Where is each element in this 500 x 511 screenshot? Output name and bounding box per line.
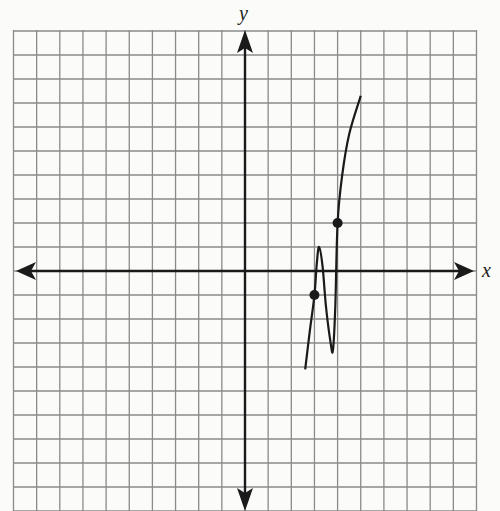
coordinate-plane: [0, 0, 500, 511]
marked-point: [333, 218, 343, 228]
y-axis-label: y: [239, 2, 248, 25]
x-axis-label: x: [482, 259, 491, 282]
marked-point: [309, 290, 319, 300]
function-curve: [305, 96, 361, 370]
